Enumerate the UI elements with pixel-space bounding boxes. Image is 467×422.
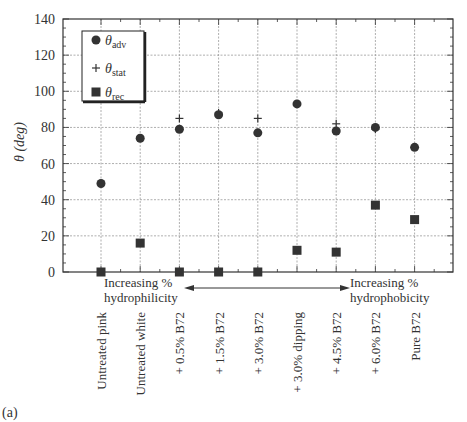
y-tick-label: 40 xyxy=(41,193,55,208)
annotation-hydrophilicity-line1: Increasing % xyxy=(104,275,172,290)
point-adv xyxy=(293,99,302,108)
point-rec xyxy=(293,246,302,255)
point-rec xyxy=(371,201,380,210)
arrowhead-left xyxy=(184,285,194,291)
y-tick-label: 80 xyxy=(41,120,55,135)
point-rec xyxy=(253,268,262,277)
y-axis-label: θ (deg) xyxy=(12,122,28,162)
x-tick-label: Untreated white xyxy=(133,312,148,396)
point-adv xyxy=(253,128,262,137)
x-tick-label: + 1.5% B72 xyxy=(212,312,227,375)
point-stat xyxy=(254,114,262,122)
point-adv xyxy=(410,143,419,152)
y-tick-label: 0 xyxy=(48,265,55,280)
x-tick-label: + 4.5% B72 xyxy=(329,312,344,375)
point-rec xyxy=(214,268,223,277)
legend-subscript: adv xyxy=(112,39,126,50)
legend-subscript: stat xyxy=(112,67,126,78)
legend-subscript: rec xyxy=(112,91,125,102)
point-rec xyxy=(136,239,145,248)
point-rec xyxy=(410,215,419,224)
panel-label: (a) xyxy=(2,405,18,421)
x-tick-label: + 3.0% dipping xyxy=(290,312,305,393)
y-tick-label: 100 xyxy=(34,84,55,99)
annotation-hydrophilicity-line2: hydrophilicity xyxy=(104,290,178,305)
x-tick-label: + 3.0% B72 xyxy=(251,312,266,375)
point-adv xyxy=(97,179,106,188)
annotation-hydrophobicity-line2: hydrophobicity xyxy=(350,290,430,305)
y-tick-label: 120 xyxy=(34,48,55,63)
legend: θadvθstatθrec xyxy=(82,31,145,102)
point-adv xyxy=(136,134,145,143)
x-axis-labels: Untreated pinkUntreated white+ 0.5% B72+… xyxy=(94,312,423,396)
point-adv xyxy=(175,125,184,134)
legend-marker-rec xyxy=(92,88,101,97)
legend-marker-adv xyxy=(92,36,101,45)
x-tick-label: + 0.5% B72 xyxy=(172,312,187,375)
point-rec xyxy=(175,268,184,277)
y-tick-label: 140 xyxy=(34,12,55,27)
point-stat xyxy=(332,120,340,128)
point-rec xyxy=(332,248,341,257)
y-tick-label: 60 xyxy=(41,157,55,172)
point-stat xyxy=(175,114,183,122)
annotations: Increasing % hydrophilicity Increasing %… xyxy=(104,275,430,305)
annotation-hydrophobicity-line1: Increasing % xyxy=(350,275,418,290)
y-tick-label: 20 xyxy=(41,229,55,244)
x-tick-label: Pure B72 xyxy=(408,312,423,361)
x-tick-label: + 6.0% B72 xyxy=(368,312,383,375)
point-adv xyxy=(332,127,341,136)
chart: 020406080100120140 θ (deg) Untreated pin… xyxy=(0,0,467,422)
arrowhead-right xyxy=(340,285,350,291)
x-tick-label: Untreated pink xyxy=(94,312,109,390)
